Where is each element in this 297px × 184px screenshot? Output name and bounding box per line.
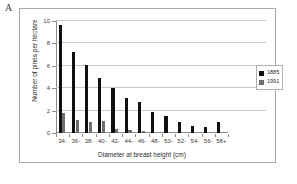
y-axis-title: Number of pines per hectare — [31, 1, 38, 121]
bar-group — [135, 21, 148, 133]
legend-item: 1885 — [259, 69, 279, 77]
x-tick-mark — [228, 134, 229, 137]
bar-group — [188, 21, 201, 133]
legend-swatch-icon — [259, 71, 264, 76]
bar-group — [122, 21, 135, 133]
x-tick-mark — [175, 134, 176, 137]
bar-1885-50- — [164, 116, 167, 133]
bar-group — [202, 21, 215, 133]
x-tick-mark — [202, 134, 203, 137]
bar-1885-44- — [125, 98, 128, 133]
legend-item: 1991 — [259, 78, 279, 86]
legend-label: 1885 — [267, 70, 279, 76]
bar-1885-54- — [191, 126, 194, 133]
x-tick-label: 42- — [109, 138, 122, 144]
bar-1885-40- — [98, 78, 101, 133]
x-tick-mark — [82, 134, 83, 137]
x-tick-mark — [188, 134, 189, 137]
legend-swatch-icon — [259, 80, 264, 85]
bar-1991-40- — [102, 121, 105, 133]
bar-1885-56- — [204, 127, 207, 133]
bar-1991-42- — [115, 129, 118, 133]
x-tick-mark — [56, 134, 57, 137]
x-tick-mark — [69, 134, 70, 137]
bar-group — [56, 21, 69, 133]
bar-group — [175, 21, 188, 133]
x-tick-label: 44- — [122, 138, 135, 144]
bar-group — [82, 21, 95, 133]
x-tick-label: 56- — [202, 138, 215, 144]
x-tick-mark — [96, 134, 97, 137]
bar-1885-34- — [59, 25, 62, 133]
bar-group — [96, 21, 109, 133]
x-tick-label: 40- — [96, 138, 109, 144]
bar-1991-44- — [128, 130, 131, 133]
bar-1885-36- — [72, 52, 75, 133]
x-tick-mark — [215, 134, 216, 137]
panel-label: A — [5, 3, 12, 13]
bar-1885-48- — [151, 112, 154, 133]
x-tick-label: 38- — [82, 138, 95, 144]
x-tick-mark — [162, 134, 163, 137]
plot-area — [56, 21, 228, 133]
x-axis-tick-labels: 34-36-38-40-42-44-46-48-50-52-54-56-58+ — [56, 138, 228, 150]
legend: 18851991 — [256, 65, 283, 90]
bar-1885-38- — [85, 65, 88, 133]
bar-1885-42- — [111, 88, 114, 133]
x-tick-label: 36- — [69, 138, 82, 144]
x-tick-label: 58+ — [215, 138, 228, 144]
x-tick-label: 46- — [135, 138, 148, 144]
x-tick-mark — [122, 134, 123, 137]
x-tick-label: 52- — [175, 138, 188, 144]
x-tick-mark — [109, 134, 110, 137]
figure-panel-a: A 0246810 34-36-38-40-42-44-46-48-50-52-… — [0, 0, 297, 184]
bar-1991-46- — [142, 131, 145, 133]
bar-group — [109, 21, 122, 133]
x-tick-mark — [135, 134, 136, 137]
x-tick-label: 54- — [188, 138, 201, 144]
bar-1885-46- — [138, 102, 141, 133]
chart-frame: 0246810 34-36-38-40-42-44-46-48-50-52-54… — [19, 8, 276, 163]
legend-label: 1991 — [267, 79, 279, 85]
x-axis-title: Diameter at breast height (cm) — [56, 151, 228, 158]
bar-1991-38- — [89, 122, 92, 133]
bar-1991-34- — [62, 113, 65, 133]
bar-group — [215, 21, 228, 133]
bar-1885-52- — [178, 122, 181, 133]
bar-group — [149, 21, 162, 133]
x-tick-mark — [149, 134, 150, 137]
x-tick-label: 48- — [149, 138, 162, 144]
x-tick-label: 34- — [56, 138, 69, 144]
bar-1885-58+ — [217, 122, 220, 133]
x-tick-label: 50- — [162, 138, 175, 144]
y-tick-label: 0 — [24, 130, 50, 136]
bar-1991-36- — [76, 120, 79, 133]
bar-group — [69, 21, 82, 133]
bar-group — [162, 21, 175, 133]
